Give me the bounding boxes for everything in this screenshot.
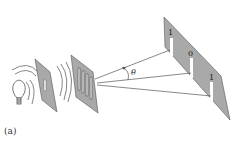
screen-label-middle: 0 [188,49,193,58]
diffraction-grating [71,55,98,113]
light-bulb-icon [13,80,26,104]
angle-label: θ [131,68,136,77]
diffracted-waves-icon [57,62,72,102]
diffraction-diagram: θ 1 0 1 [0,0,237,144]
angle-arc [124,68,129,80]
detection-screen [164,17,230,120]
figure-caption: (a) [4,126,16,136]
screen-label-top: 1 [168,28,173,37]
screen-label-bottom: 1 [209,73,214,82]
single-slit-plate [35,59,57,112]
